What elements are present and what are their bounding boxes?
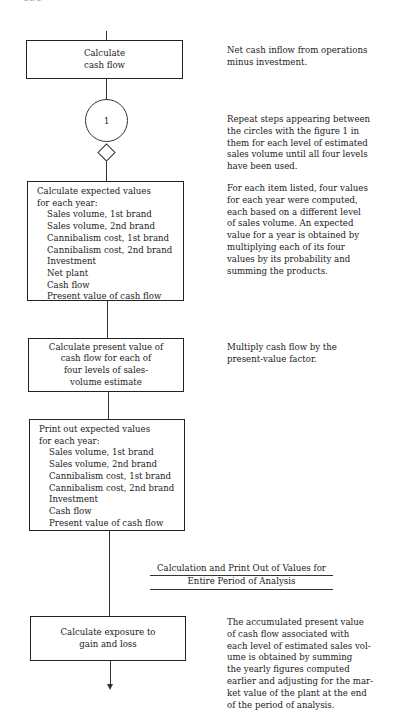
list-item: Cannibalism cost, 2nd brand [37,245,183,257]
step-text: Calculate exposure to [60,627,155,639]
note-text: Net cash inflow from operations [227,45,397,57]
step-title: for each year: [39,436,184,448]
note-text: for each year were computed, [227,195,397,207]
note-text: ume is obtained by summing [227,652,397,664]
note-expected-values: For each item listed, four values for ea… [227,183,397,277]
flow-line [106,78,107,100]
note-text: values by its probability and [227,254,397,266]
section-heading: Calculation and Print Out of Values for … [150,563,333,590]
list-item: Sales volume, 2nd brand [37,221,183,233]
note-text: earlier and adjusting for the mar- [227,676,397,688]
list-item: Cash flow [39,506,184,518]
step-title: Calculate expected values [37,186,183,198]
note-text: of cash flow associated with [227,629,397,641]
step-text: Calculate present value of [49,342,163,354]
list-item: Sales volume, 1st brand [39,447,184,459]
list-item: Cannibalism cost, 1st brand [39,471,184,483]
note-text: have been used. [227,161,397,173]
step-text: four levels of sales- [64,365,148,377]
list-item: Present value of cash flow [39,518,184,530]
step-text: cash flow for each of [61,353,151,365]
note-text: Multiply cash flow by the [227,342,397,354]
note-text: each based on a different level [227,207,397,219]
step-title: for each year: [37,198,183,210]
note-text: multiplying each of its four [227,242,397,254]
list-item: Cannibalism cost, 1st brand [37,233,183,245]
step-text: cash flow [84,60,125,72]
note-text: of sales volume. An expected [227,218,397,230]
step-text: Calculate [84,48,125,60]
list-item: Cannibalism cost, 2nd brand [39,483,184,495]
note-text: ket value of the plant at the end [227,688,397,700]
step-calculate-exposure: Calculate exposure to gain and loss [30,616,186,661]
list-item: Present value of cash flow [37,291,183,303]
list-item: Sales volume, 2nd brand [39,459,184,471]
step-calculate-cash-flow: Calculate cash flow [26,40,183,79]
step-print-expected-values: Print out expected values for each year:… [29,419,185,531]
note-text: of the period of analysis. [227,700,397,712]
connector-label: 1 [104,116,110,126]
flow-line [106,160,107,182]
note-text: value for a year is obtained by [227,230,397,242]
note-text: the circles with the figure 1 in [227,126,397,138]
list-item: Cash flow [37,280,183,292]
note-text: each level of estimated sales vol- [227,641,397,653]
decision-diamond-icon [97,143,115,161]
step-calculate-expected-values: Calculate expected values for each year:… [27,181,184,301]
section-heading-line-2: Entire Period of Analysis [150,576,333,590]
note-text: sales volume until all four levels [227,149,397,161]
note-text: them for each level of estimated [227,138,397,150]
note-text: present-value factor. [227,354,397,366]
arrow-down-icon [107,684,113,690]
note-text: minus investment. [227,57,397,69]
list-item: Investment [37,256,183,268]
flow-line [108,391,109,420]
step-text: gain and loss [79,639,136,651]
note-text: Repeat steps appearing between [227,114,397,126]
note-present-value: Multiply cash flow by the present-value … [227,342,397,366]
loop-connector-circle: 1 [85,99,128,142]
step-text: volume estimate [70,377,142,389]
note-exposure: The accumulated present value of cash fl… [227,617,397,711]
flow-line [110,660,111,686]
note-text: summing the products. [227,266,397,278]
page-number: 336 [24,0,42,3]
note-repeat: Repeat steps appearing between the circl… [227,114,397,173]
flow-line [107,300,108,339]
note-text: the yearly figures computed [227,664,397,676]
flow-line [109,530,110,617]
step-calculate-present-value: Calculate present value of cash flow for… [28,338,184,392]
list-item: Net plant [37,268,183,280]
note-text: The accumulated present value [227,617,397,629]
section-heading-line-1: Calculation and Print Out of Values for [150,563,333,576]
list-item: Sales volume, 1st brand [37,209,183,221]
step-title: Print out expected values [39,424,184,436]
note-text: For each item listed, four values [227,183,397,195]
note-cash-flow: Net cash inflow from operations minus in… [227,45,397,69]
list-item: Investment [39,494,184,506]
